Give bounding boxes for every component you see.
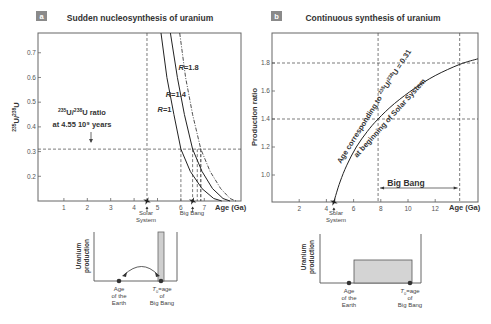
panel-a-bigbang-label: Big Bang [180, 210, 204, 216]
panel-a-annotation-arrowhead [89, 139, 93, 143]
a-marker-solar-system-arrowhead [145, 207, 148, 210]
a-curve-label: R=1 [158, 105, 172, 114]
a-xtick-label: 3 [109, 204, 113, 211]
inset-a-earth-label-3: Earth [112, 300, 126, 306]
panel-a-inset: Uranium production Age of the Earth T0=a… [75, 232, 177, 306]
b-xtick-label: 10 [404, 205, 412, 212]
inset-a-double-arrow [124, 267, 158, 276]
a-ytick-label: 0.2 [27, 173, 36, 180]
b-ytick-label: 1.0 [261, 171, 270, 178]
a-ytick-label: 0.5 [27, 98, 36, 105]
panel-a-title: Sudden nucleosynthesis of uranium [67, 13, 214, 23]
figure: a Sudden nucleosynthesis of uranium 1234… [0, 0, 491, 324]
panel-a-ticks: 12345670.20.30.40.50.60.7 [27, 49, 207, 211]
inset-a-ylabel-2: production [83, 239, 91, 273]
a-ytick-label: 0.3 [27, 148, 36, 155]
inset-a-t0-label-2: of [159, 293, 164, 299]
inset-b-ylabel-2: production [308, 240, 316, 274]
a-xtick-label: 4 [132, 204, 136, 211]
panel-a-annotation-line1: 235U/238U ratio [58, 107, 106, 117]
panel-a-annotation-line2: at 4.55 10⁹ years [52, 120, 111, 129]
a-curve-label: R=1.4 [166, 90, 187, 99]
inset-b-earth-dot [347, 281, 352, 286]
b-ytick-label: 1.2 [261, 143, 270, 150]
panel-a-frame [38, 33, 241, 201]
b-bigbang-span-arrow-left [380, 186, 384, 189]
panel-b-title: Continuous synthesis of uranium [305, 13, 441, 23]
panel-a-ylabel: 235U/238U [11, 102, 21, 132]
a-xtick-label: 2 [85, 204, 89, 211]
panel-b-letter: b [274, 12, 279, 21]
b-ytick-label: 1.4 [261, 115, 270, 122]
inset-b-earth-label-3: Earth [342, 302, 356, 308]
panel-b-frame [272, 33, 478, 202]
panel-b-bigbang-label: Big Bang [387, 178, 424, 188]
a-ytick-label: 0.4 [27, 123, 36, 130]
panel-b-inset: Uranium production Age of the Earth T0=a… [300, 234, 422, 308]
panel-b: b Continuous synthesis of uranium 246810… [250, 11, 481, 308]
panel-b-ylabel: Production ratio [250, 88, 259, 146]
inset-a-ylabel-1: Uranium [75, 243, 82, 270]
panel-a: a Sudden nucleosynthesis of uranium 1234… [11, 11, 247, 306]
inset-a-earth-label-2: of the [111, 293, 127, 299]
inset-b-earth-label-1: Age [344, 288, 355, 294]
a-curve-label: R=1.8 [179, 63, 199, 72]
b-xtick-label: 8 [379, 205, 383, 212]
a-ytick-label: 0.6 [27, 74, 36, 81]
panel-a-solar-label-2: System [136, 217, 156, 223]
panel-b-plot [272, 33, 478, 213]
inset-b-earth-label-2: of the [341, 295, 357, 301]
b-ytick-label: 1.8 [261, 59, 270, 66]
inset-a-bigbang-dot [159, 279, 164, 284]
panel-a-xlabel: Age (Ga) [215, 203, 247, 212]
panel-b-solar-label-2: System [326, 217, 346, 223]
inset-b-t0-label-2: of [407, 295, 412, 301]
inset-b-production-block [354, 260, 412, 283]
inset-a-arrowhead-left [122, 272, 127, 277]
a-curve-r-1-8 [180, 33, 236, 201]
inset-a-earth-label-1: Age [114, 286, 125, 292]
inset-b-bigbang-dot [408, 281, 413, 286]
a-curve-r-1-4 [170, 33, 230, 201]
b-bigbang-span-arrow-right [454, 186, 458, 189]
inset-b-t0-label-3: Big Bang [398, 302, 422, 308]
inset-a-t0-label-3: Big Bang [150, 300, 174, 306]
inset-a-production-spike [158, 232, 164, 281]
a-xtick-label: 1 [62, 204, 66, 211]
panel-a-solar-label-1: Solar [139, 210, 153, 216]
b-xtick-label: 12 [432, 205, 440, 212]
b-xtick-label: 2 [297, 205, 301, 212]
panel-b-xlabel: Age (Ga) [449, 203, 481, 212]
a-xtick-label: 5 [156, 204, 160, 211]
b-xtick-label: 6 [352, 205, 356, 212]
b-xtick-label: 4 [325, 205, 329, 212]
inset-b-ylabel-1: Uranium [300, 244, 307, 271]
a-ytick-label: 0.7 [27, 49, 36, 56]
b-ytick-label: 1.6 [261, 87, 270, 94]
a-marker-big-bang-arrowhead [191, 207, 194, 210]
panel-b-solar-label-1: Solar [329, 210, 343, 216]
inset-a-earth-dot [117, 279, 122, 284]
